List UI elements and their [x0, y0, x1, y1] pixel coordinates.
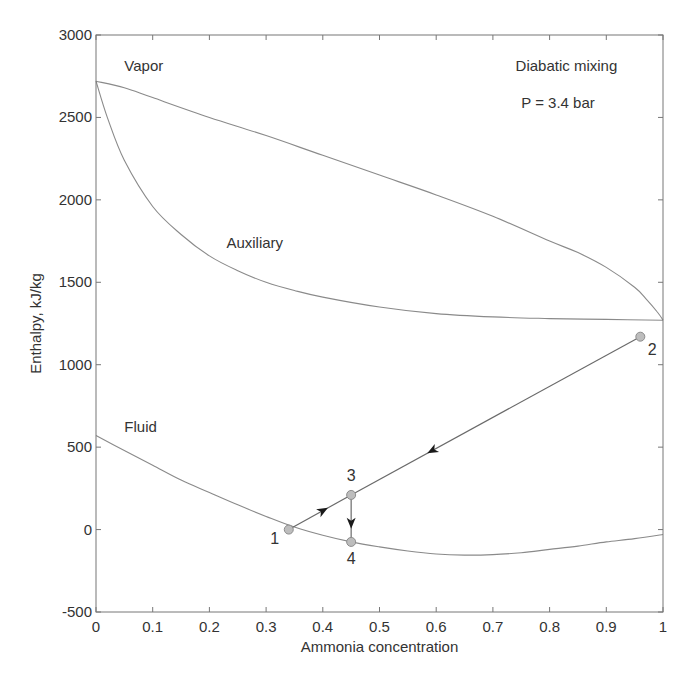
y-tick-label: 0: [84, 521, 92, 538]
process-line-1-3: [289, 495, 351, 530]
y-axis-label: Enthalpy, kJ/kg: [27, 273, 44, 374]
y-tick-label: 1500: [59, 273, 92, 290]
state-point-label-2: 2: [648, 341, 657, 358]
x-tick-label: 1: [659, 618, 667, 635]
arrow-icon: [316, 508, 328, 517]
y-tick-label: 3000: [59, 26, 92, 43]
x-tick-label: 0.3: [256, 618, 277, 635]
state-point-label-4: 4: [347, 550, 356, 567]
axes-frame: [96, 35, 663, 612]
x-tick-label: 0.7: [482, 618, 503, 635]
saturation-curves: [96, 81, 663, 555]
vapor-curve-label: Vapor: [124, 57, 163, 74]
state-point-2: [636, 332, 645, 341]
x-tick-label: 0.5: [369, 618, 390, 635]
x-axis-label: Ammonia concentration: [301, 638, 459, 655]
text-labels: VaporAuxiliaryFluid123400.10.20.30.40.50…: [27, 26, 667, 655]
state-point-label-1: 1: [270, 530, 279, 547]
process-line-2-3: [351, 337, 640, 495]
fluid-curve: [96, 436, 663, 556]
state-point-1: [284, 525, 293, 534]
x-tick-label: 0.6: [426, 618, 447, 635]
state-point-label-3: 3: [347, 467, 356, 484]
enthalpy-concentration-chart: VaporAuxiliaryFluid123400.10.20.30.40.50…: [0, 0, 694, 680]
y-tick-label: 2000: [59, 191, 92, 208]
y-tick-label: 1000: [59, 356, 92, 373]
y-tick-label: -500: [62, 603, 92, 620]
plot-frame: [96, 35, 663, 612]
state-point-4: [347, 537, 356, 546]
auxiliary-curve: [96, 81, 663, 320]
axis-ticks: [96, 35, 663, 612]
fluid-curve-label: Fluid: [124, 418, 157, 435]
x-tick-label: 0.9: [596, 618, 617, 635]
y-tick-label: 500: [67, 438, 92, 455]
x-tick-label: 0.8: [539, 618, 560, 635]
x-tick-label: 0.1: [142, 618, 163, 635]
mixing-process: [284, 332, 645, 546]
x-tick-label: 0: [92, 618, 100, 635]
x-tick-label: 0.4: [312, 618, 333, 635]
pressure-annotation: P = 3.4 bar: [521, 94, 595, 111]
y-tick-label: 2500: [59, 108, 92, 125]
state-point-3: [347, 490, 356, 499]
arrow-icon: [427, 444, 439, 453]
auxiliary-curve-label: Auxiliary: [226, 234, 283, 251]
process-title-annotation: Diabatic mixing: [516, 57, 618, 74]
vapor-curve: [96, 81, 663, 320]
x-tick-label: 0.2: [199, 618, 220, 635]
